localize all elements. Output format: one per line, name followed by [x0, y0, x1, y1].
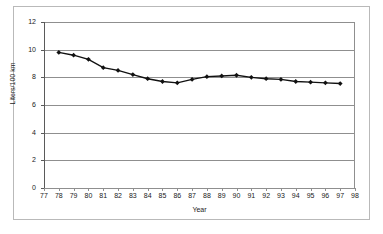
y-tick-label: 2 [14, 156, 36, 164]
data-point-marker [116, 68, 121, 73]
x-tick-label: 86 [169, 192, 185, 200]
x-tick-label: 77 [36, 192, 52, 200]
x-tick-mark [177, 188, 178, 191]
data-point-marker [279, 77, 284, 82]
x-tick-label: 94 [288, 192, 304, 200]
x-tick-label: 93 [273, 192, 289, 200]
data-point-marker [175, 80, 180, 85]
x-tick-mark [162, 188, 163, 191]
y-tick-label: 0 [14, 184, 36, 192]
x-tick-mark [340, 188, 341, 191]
data-point-marker [293, 79, 298, 84]
data-point-marker [249, 75, 254, 80]
x-tick-label: 88 [199, 192, 215, 200]
x-tick-label: 82 [110, 192, 126, 200]
x-tick-label: 81 [95, 192, 111, 200]
y-tick-label: 10 [14, 46, 36, 54]
x-tick-mark [74, 188, 75, 191]
x-tick-mark [296, 188, 297, 191]
y-tick-label: 6 [14, 101, 36, 109]
x-tick-label: 80 [80, 192, 96, 200]
x-tick-label: 84 [140, 192, 156, 200]
x-tick-mark [59, 188, 60, 191]
x-tick-mark [266, 188, 267, 191]
data-point-marker [234, 73, 239, 78]
x-tick-label: 97 [332, 192, 348, 200]
x-tick-label: 87 [184, 192, 200, 200]
x-tick-label: 83 [125, 192, 141, 200]
x-tick-mark [207, 188, 208, 191]
data-point-marker [264, 76, 269, 81]
y-tick-label: 4 [14, 129, 36, 137]
x-tick-label: 79 [66, 192, 82, 200]
x-tick-mark [192, 188, 193, 191]
data-point-marker [323, 80, 328, 85]
x-tick-label: 92 [258, 192, 274, 200]
data-point-marker [190, 77, 195, 82]
x-tick-mark [148, 188, 149, 191]
x-axis-title: Year [44, 206, 355, 213]
x-tick-label: 78 [51, 192, 67, 200]
x-tick-mark [237, 188, 238, 191]
x-tick-mark [325, 188, 326, 191]
data-point-marker [130, 72, 135, 77]
x-tick-label: 95 [303, 192, 319, 200]
x-tick-mark [222, 188, 223, 191]
series-markers [56, 50, 342, 86]
y-tick-label: 8 [14, 73, 36, 81]
data-point-marker [338, 81, 343, 86]
x-tick-label: 85 [154, 192, 170, 200]
data-point-marker [205, 74, 210, 79]
y-axis-title: Liters/100 km [9, 36, 16, 132]
x-tick-label: 91 [243, 192, 259, 200]
data-point-marker [71, 53, 76, 58]
x-tick-mark [133, 188, 134, 191]
x-tick-mark [311, 188, 312, 191]
x-tick-mark [355, 188, 356, 191]
x-tick-label: 90 [229, 192, 245, 200]
data-point-marker [219, 74, 224, 79]
x-tick-mark [44, 188, 45, 191]
x-axis-line [44, 188, 355, 189]
x-tick-mark [118, 188, 119, 191]
data-point-marker [56, 50, 61, 55]
x-tick-label: 89 [214, 192, 230, 200]
data-point-marker [160, 79, 165, 84]
x-tick-label: 98 [347, 192, 363, 200]
series-line [59, 52, 340, 83]
x-tick-label: 96 [317, 192, 333, 200]
data-point-marker [308, 80, 313, 85]
x-tick-mark [88, 188, 89, 191]
x-tick-mark [251, 188, 252, 191]
chart-figure: 024681012 777879808182838485868788899091… [0, 0, 383, 234]
y-tick-label: 12 [14, 18, 36, 26]
data-series [44, 22, 355, 188]
x-tick-mark [103, 188, 104, 191]
data-point-marker [145, 76, 150, 81]
x-tick-mark [281, 188, 282, 191]
